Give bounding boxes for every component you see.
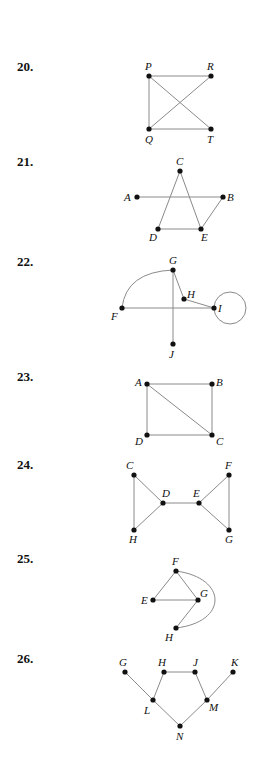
vertex-label: H	[128, 533, 138, 545]
vertex-P	[146, 73, 151, 78]
vertex-label: A	[123, 191, 131, 203]
vertex-D	[160, 500, 165, 505]
edge-M-K	[207, 672, 233, 700]
vertex-label: R	[206, 60, 214, 72]
vertex-label: B	[216, 376, 223, 388]
vertex-label: H	[157, 656, 167, 668]
vertex-F	[226, 472, 231, 477]
vertex-label: J	[193, 656, 199, 668]
edge-E-F	[199, 475, 229, 503]
vertex-label: D	[148, 231, 157, 243]
edge-J-M	[195, 672, 207, 700]
vertex-label: H	[186, 288, 196, 300]
vertex-label: M	[208, 701, 219, 713]
vertex-G	[226, 527, 231, 532]
vertex-J	[170, 341, 175, 346]
vertex-E	[196, 500, 201, 505]
edge-L-N	[153, 700, 180, 726]
edge-G-L	[125, 672, 153, 700]
graph-23: ABDC	[134, 376, 224, 447]
vertex-I	[211, 305, 216, 310]
edge-C-D	[134, 475, 163, 503]
vertex-label: B	[227, 191, 234, 203]
vertex-label: I	[217, 302, 223, 314]
vertex-label: C	[216, 435, 224, 447]
vertex-A	[144, 381, 149, 386]
vertex-label: F	[110, 310, 118, 322]
vertex-L	[150, 697, 155, 702]
vertex-H	[181, 296, 186, 301]
vertex-R	[208, 73, 213, 78]
vertex-label: H	[164, 631, 174, 643]
edge-C-D	[158, 171, 180, 229]
graph-21: CABDE	[123, 155, 234, 243]
vertex-H	[131, 527, 136, 532]
vertex-label: A	[134, 376, 142, 388]
edge-H-D	[134, 503, 163, 530]
edge-F-E	[153, 571, 176, 600]
vertex-label: C	[176, 155, 184, 167]
graph-22: GHIFJ	[110, 254, 246, 360]
vertex-H	[161, 669, 166, 674]
vertex-label: E	[140, 594, 148, 606]
vertex-F	[119, 305, 124, 310]
vertex-label: P	[144, 60, 152, 72]
edge-E-B	[201, 197, 223, 229]
graph-26: GHJKLMN	[119, 656, 239, 742]
vertex-label: T	[207, 133, 214, 145]
vertex-B	[220, 194, 225, 199]
vertex-H	[173, 625, 178, 630]
vertex-G	[170, 267, 175, 272]
vertex-C	[209, 432, 214, 437]
edge-H-I	[184, 299, 214, 308]
vertex-label: J	[169, 348, 175, 360]
vertex-label: C	[126, 459, 134, 471]
vertex-B	[209, 381, 214, 386]
graph-25: FEGH	[140, 555, 215, 643]
vertex-label: G	[225, 533, 233, 545]
edge-N-M	[180, 700, 207, 726]
vertex-label: G	[119, 656, 127, 668]
edge-A-C	[147, 384, 212, 435]
vertex-label: F	[171, 555, 179, 567]
vertex-A	[134, 194, 139, 199]
edge-C-E	[180, 171, 201, 229]
edge-L-H	[153, 672, 164, 700]
vertex-F	[173, 568, 178, 573]
graph-20: PRQT	[144, 60, 214, 145]
vertex-D	[144, 432, 149, 437]
curved-edge-F-G	[122, 270, 173, 308]
vertex-label: E	[192, 487, 200, 499]
graph-canvas: PRQTCABDEGHIFJABDCCDEFHGFEGHGHJKLMN	[0, 0, 264, 761]
vertex-N	[177, 723, 182, 728]
vertex-label: G	[169, 254, 177, 266]
edge-G-H	[173, 270, 184, 299]
vertex-label: E	[200, 231, 208, 243]
vertex-T	[208, 126, 213, 131]
vertex-K	[230, 669, 235, 674]
vertex-E	[150, 597, 155, 602]
vertex-C	[177, 168, 182, 173]
vertex-label: D	[134, 435, 143, 447]
edge-E-G	[199, 503, 229, 530]
vertex-J	[192, 669, 197, 674]
vertex-label: D	[161, 487, 170, 499]
vertex-label: K	[230, 656, 239, 668]
vertex-Q	[146, 126, 151, 131]
vertex-label: G	[200, 587, 208, 599]
vertex-label: Q	[145, 133, 153, 145]
vertex-C	[131, 472, 136, 477]
vertex-label: L	[143, 704, 150, 716]
vertex-label: N	[175, 730, 184, 742]
vertex-G	[122, 669, 127, 674]
vertex-label: F	[224, 459, 232, 471]
graph-24: CDEFHG	[126, 459, 233, 545]
